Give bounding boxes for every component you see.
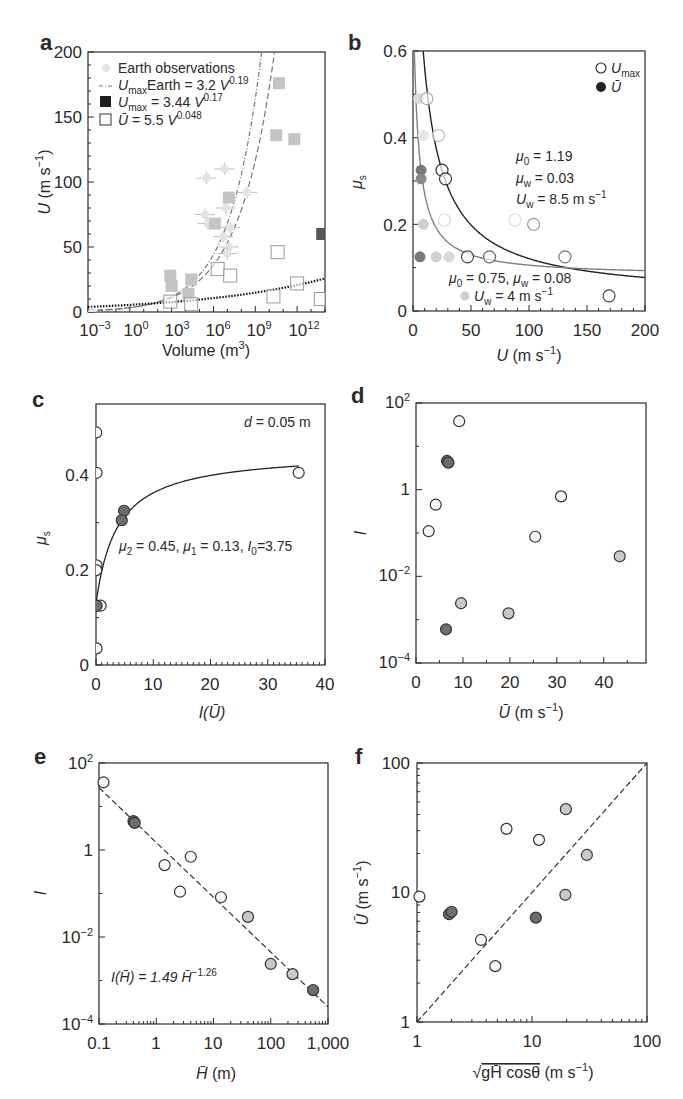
x-tick-b: 200 (631, 321, 659, 340)
x-tick-c: 10 (144, 675, 163, 694)
open-point (533, 834, 544, 845)
grey-point (503, 608, 514, 619)
x-tick-e: 0.1 (87, 1034, 111, 1053)
plot-frame-c (96, 404, 325, 665)
umean-point (431, 251, 442, 262)
panel-label-f: f (355, 744, 363, 769)
grey-point (581, 849, 592, 860)
fit-curve (88, 279, 324, 307)
umax-square (270, 129, 282, 141)
grey-point (560, 889, 571, 900)
panel-e: e 10−4 10−2 1 102 0.1 1 10 100 1,000 H̄ … (32, 744, 349, 1082)
grey-point (560, 804, 571, 815)
fit-curve (88, 0, 324, 311)
y-tick-d: 10−4 (379, 651, 410, 672)
legend-a: Earth observations UmaxEarth = 3.2 V0.19… (99, 60, 249, 128)
plot-area-a (82, 0, 328, 318)
umean-point (418, 219, 429, 230)
earth-observation-point (201, 211, 209, 219)
plot-area-f (414, 763, 647, 1022)
x-tick-d: 10 (454, 673, 473, 692)
open-point (175, 886, 186, 897)
x-axis-label-d: Ū (m s−1) (499, 701, 564, 721)
open-point (454, 416, 465, 427)
y-axis-label-f: Ū (m s−1) (351, 861, 371, 926)
y-tick-d: 1 (401, 480, 410, 499)
umax-point (484, 251, 496, 263)
open-point (423, 526, 434, 537)
dark-point (129, 817, 140, 828)
plot-area-d (423, 416, 625, 635)
panel-f: f 1 10 100 1 10 100 √gH̄ cosθ (m s−1) Ū … (351, 744, 661, 1081)
earth-observation-point (203, 174, 211, 182)
y-tick-b: 0.4 (383, 129, 407, 148)
umax-square (185, 274, 197, 286)
umax-point (462, 251, 474, 263)
x-tick-a: 103 (164, 319, 189, 340)
y-tick-b: 0.6 (383, 42, 407, 61)
y-tick-f: 100 (382, 754, 410, 773)
x-tick-b: 50 (462, 321, 481, 340)
x-tick-d: 0 (411, 673, 420, 692)
dark-point (116, 515, 127, 526)
grey-point (614, 551, 625, 562)
umean-square (224, 269, 237, 282)
panel-a: a 0 50 100 150 200 10−3 100 103 106 109 … (33, 0, 328, 359)
y-tick-a: 0 (73, 303, 82, 322)
x-tick-e: 10 (204, 1034, 223, 1053)
grey-point (265, 958, 276, 969)
open-point (501, 823, 512, 834)
umean-square (271, 246, 284, 259)
umean-square (185, 298, 198, 311)
dark-point (308, 985, 319, 996)
dark-point (91, 600, 102, 611)
umax-point (603, 290, 615, 302)
x-tick-e: 100 (257, 1034, 285, 1053)
umax-point (421, 93, 433, 105)
dark-point (446, 906, 457, 917)
umean-square (291, 277, 304, 290)
open-point (91, 467, 102, 478)
umean-square (164, 295, 177, 308)
umean-point (418, 130, 429, 141)
y-tick-a: 50 (63, 238, 82, 257)
legend-fit1-label: UmaxEarth = 3.2 V0.19 (118, 75, 249, 96)
annotation-muw-upper: μw = 0.03 (515, 170, 574, 189)
friction-fit-curve (413, 6, 645, 270)
x-axis-label-e: H̄ (m) (196, 1065, 236, 1082)
open-point (91, 427, 102, 438)
x-axis-label-a: Volume (m3) (162, 339, 250, 359)
earth-observation-point (219, 233, 227, 241)
y-tick-e: 1 (84, 841, 93, 860)
annotation-grain-size: d = 0.05 m (244, 414, 311, 430)
umean-square (267, 290, 280, 303)
figure: a 0 50 100 150 200 10−3 100 103 106 109 … (0, 0, 683, 1099)
x-tick-e: 1,000 (307, 1034, 350, 1053)
open-point (215, 892, 226, 903)
legend-marker-filled-square (100, 96, 111, 107)
y-tick-c: 0.2 (65, 561, 89, 580)
legend-marker-open-square (100, 114, 111, 125)
open-point (293, 467, 304, 478)
umax-point (559, 251, 571, 263)
one-to-one-line (417, 763, 647, 1022)
x-tick-a: 10−3 (79, 319, 110, 340)
legend-ubar-label: Ū (611, 79, 622, 95)
x-tick-e: 1 (151, 1034, 160, 1053)
x-axis-label-b: U (m s−1) (497, 344, 562, 364)
x-tick-a: 106 (205, 319, 230, 340)
x-tick-c: 0 (91, 675, 100, 694)
panel-label-d: d (351, 383, 364, 408)
x-tick-b: 0 (408, 321, 417, 340)
y-tick-b: 0 (398, 302, 407, 321)
x-tick-d: 20 (501, 673, 520, 692)
open-point (159, 860, 170, 871)
earth-observation-point (223, 250, 231, 258)
x-tick-a: 109 (246, 319, 271, 340)
earth-observation-point (226, 224, 234, 232)
x-axis-label-c: I(Ū) (199, 704, 226, 721)
fit-curve (88, 0, 324, 311)
legend-umax-label: Umax (611, 60, 640, 79)
legend-earth-label: Earth observations (118, 60, 235, 76)
x-tick-f: 100 (633, 1032, 661, 1051)
